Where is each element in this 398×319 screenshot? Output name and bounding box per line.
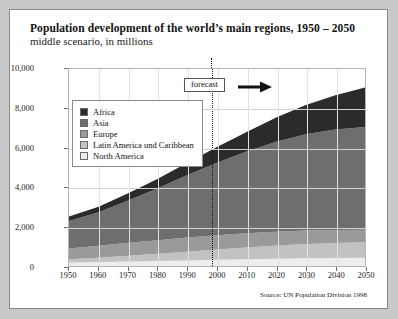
x-axis-tick-label: 2000 xyxy=(209,270,226,280)
legend-swatch-icon xyxy=(80,152,88,160)
x-axis-tick-mark xyxy=(277,267,278,271)
y-axis-tick-mark xyxy=(64,227,68,228)
legend-swatch-icon xyxy=(80,119,88,127)
legend-item-label: North America xyxy=(93,151,144,161)
x-axis-tick-mark xyxy=(336,267,337,271)
stacked-area-series xyxy=(69,69,365,266)
gridline-vertical xyxy=(99,69,100,266)
legend-item: Europe xyxy=(80,128,194,139)
legend: AfricaAsiaEuropeLatin America und Caribb… xyxy=(72,100,203,167)
gridline-vertical xyxy=(158,69,159,266)
legend-item-label: Africa xyxy=(93,107,115,117)
x-axis-tick-mark xyxy=(128,267,129,271)
y-axis-tick-label: 2,000 xyxy=(0,222,34,232)
x-axis-tick-label: 1950 xyxy=(60,270,77,280)
forecast-label: forecast xyxy=(184,78,225,92)
page-title: Population development of the world’s ma… xyxy=(30,22,376,34)
gridline-vertical xyxy=(248,69,249,266)
legend-swatch-icon xyxy=(80,130,88,138)
legend-item-label: Asia xyxy=(93,118,109,128)
legend-item: North America xyxy=(80,150,194,161)
y-axis-tick-label: 6,000 xyxy=(0,143,34,153)
y-axis-tick-label: 4,000 xyxy=(0,182,34,192)
x-axis-tick-label: 2040 xyxy=(328,270,345,280)
y-axis-tick-mark xyxy=(64,187,68,188)
arrow-right-icon xyxy=(238,81,272,93)
x-axis-tick-label: 1980 xyxy=(149,270,166,280)
gridline-horizontal xyxy=(69,228,365,229)
chart-card: Population development of the world’s ma… xyxy=(9,9,388,309)
x-axis-tick-label: 1990 xyxy=(179,270,196,280)
gridline-vertical xyxy=(218,69,219,266)
x-axis-tick-label: 2030 xyxy=(298,270,315,280)
plot-area xyxy=(68,68,366,267)
gridline-vertical xyxy=(337,69,338,266)
gridline-vertical xyxy=(129,69,130,266)
y-axis-tick-mark xyxy=(64,68,68,69)
x-axis-tick-label: 2010 xyxy=(238,270,255,280)
gridline-vertical xyxy=(188,69,189,266)
x-axis-tick-mark xyxy=(217,267,218,271)
x-axis-tick-mark xyxy=(157,267,158,271)
y-axis-tick-label: 0 xyxy=(0,262,34,272)
title-block: Population development of the world’s ma… xyxy=(30,22,376,47)
x-axis-tick-label: 2050 xyxy=(358,270,375,280)
legend-item-label: Europe xyxy=(93,129,118,139)
gridline-vertical xyxy=(278,69,279,266)
source-note: Source: UN Population Division 1998 xyxy=(260,291,367,299)
legend-item: Asia xyxy=(80,117,194,128)
chart-subtitle: middle scenario, in millions xyxy=(30,35,376,47)
x-axis-tick-label: 1960 xyxy=(89,270,106,280)
legend-item-label: Latin America und Caribbean xyxy=(93,140,194,150)
legend-item: Africa xyxy=(80,106,194,117)
legend-item: Latin America und Caribbean xyxy=(80,139,194,150)
y-axis-tick-label: 8,000 xyxy=(0,103,34,113)
forecast-divider-line xyxy=(212,69,213,266)
gridline-horizontal xyxy=(69,188,365,189)
plot-wrapper: forecast AfricaAsiaEuropeLatin America u… xyxy=(30,58,376,290)
x-axis-tick-mark xyxy=(247,267,248,271)
x-axis-tick-label: 2020 xyxy=(268,270,285,280)
legend-swatch-icon xyxy=(80,141,88,149)
forecast-label-text: forecast xyxy=(191,79,218,89)
x-axis-tick-mark xyxy=(187,267,188,271)
gridline-vertical xyxy=(307,69,308,266)
x-axis-tick-mark xyxy=(306,267,307,271)
y-axis-tick-label: 10,000 xyxy=(0,63,34,73)
forecast-divider-line-upper xyxy=(211,58,212,68)
x-axis-tick-mark xyxy=(366,267,367,271)
x-axis-tick-mark xyxy=(68,267,69,271)
y-axis-tick-mark xyxy=(64,108,68,109)
legend-swatch-icon xyxy=(80,108,88,116)
x-axis-tick-mark xyxy=(98,267,99,271)
x-axis-tick-label: 1970 xyxy=(119,270,136,280)
y-axis-tick-mark xyxy=(64,148,68,149)
